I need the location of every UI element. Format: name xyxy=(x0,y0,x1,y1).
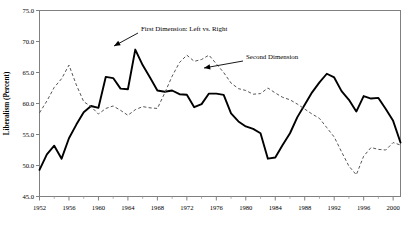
first-dimension-annotation: First Dimension: Left vs. Right xyxy=(114,25,227,46)
y-tick-label: 70.0 xyxy=(22,38,34,45)
x-tick-label: 1964 xyxy=(121,204,135,211)
y-tick-label: 45.0 xyxy=(22,193,34,200)
y-tick-label: 55.0 xyxy=(22,131,34,138)
y-axis-title: Liberalism (Percent) xyxy=(3,71,11,135)
y-tick-label: 60.0 xyxy=(22,100,34,107)
x-axis-ticks xyxy=(40,197,394,201)
liberalism-line-chart: 45.050.055.060.065.070.075.0 19521956196… xyxy=(0,0,408,232)
x-axis-tick-labels: 1952195619601964196819721976198019841988… xyxy=(33,204,401,211)
x-tick-label: 1996 xyxy=(357,204,371,211)
second-dimension-annotation: Second Dimension xyxy=(204,53,299,69)
y-axis-tick-labels: 45.050.055.060.065.070.075.0 xyxy=(22,7,34,200)
y-tick-label: 65.0 xyxy=(22,69,34,76)
x-tick-label: 1976 xyxy=(210,204,224,211)
chart-container: 45.050.055.060.065.070.075.0 19521956196… xyxy=(0,0,408,232)
series-layer xyxy=(40,50,401,175)
series-line-2 xyxy=(40,55,401,175)
y-axis-ticks xyxy=(36,11,40,197)
x-tick-label: 1968 xyxy=(151,204,165,211)
x-tick-label: 1960 xyxy=(92,204,106,211)
plot-frame xyxy=(40,11,401,197)
annotation-label: Second Dimension xyxy=(246,53,299,60)
y-axis-title-text: Liberalism (Percent) xyxy=(3,71,11,135)
plot-border xyxy=(40,11,401,197)
y-tick-label: 50.0 xyxy=(22,162,34,169)
y-tick-label: 75.0 xyxy=(22,7,34,14)
x-tick-label: 1980 xyxy=(239,204,253,211)
x-tick-label: 1956 xyxy=(62,204,76,211)
x-tick-label: 1972 xyxy=(180,204,193,211)
annotation-arrowhead xyxy=(204,64,211,69)
x-tick-label: 1988 xyxy=(298,204,312,211)
x-tick-label: 1992 xyxy=(328,204,341,211)
x-tick-label: 1984 xyxy=(269,204,283,211)
annotation-label: First Dimension: Left vs. Right xyxy=(141,25,227,32)
x-tick-label: 1952 xyxy=(33,204,46,211)
x-tick-label: 2000 xyxy=(387,204,401,211)
